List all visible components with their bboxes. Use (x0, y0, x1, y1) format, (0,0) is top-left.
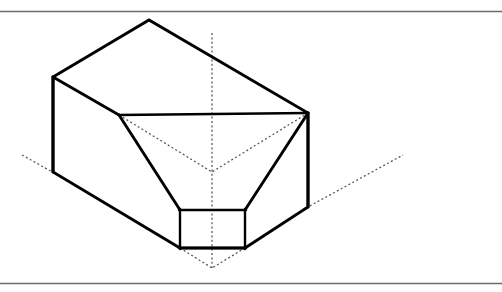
isometric-drawing-canvas (0, 0, 502, 292)
technical-drawing-figure (0, 0, 502, 292)
throat-face (180, 210, 245, 248)
